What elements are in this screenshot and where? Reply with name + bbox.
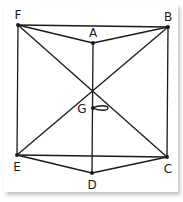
label-G: G [77,102,86,116]
edge-F-A [18,25,93,43]
vertex-B [166,25,170,29]
edge-B-C [167,27,168,157]
label-F: F [15,8,22,22]
edge-D-C [92,157,167,173]
vertex-G [91,106,95,110]
label-C: C [164,162,172,176]
label-E: E [13,160,21,174]
vertex-D [90,171,94,175]
vertex-A [91,41,95,45]
label-B: B [164,10,172,24]
edges [17,25,168,173]
edge-E-D [17,155,92,173]
label-A: A [89,26,98,40]
vertex-E [15,153,19,157]
vertex-C [165,155,169,159]
vertex-F [16,23,20,27]
loop-at-G [93,106,108,111]
label-D: D [87,178,96,192]
edge-A-B [93,27,168,43]
geometry-diagram: F B A G E C D [0,0,183,202]
edge-F-E [17,25,18,155]
